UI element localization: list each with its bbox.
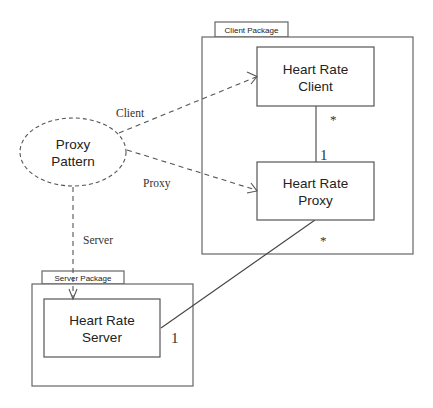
class-heart-rate-proxy[interactable]: Heart Rate Proxy xyxy=(257,162,374,220)
collaboration-proxy-pattern[interactable]: Proxy Pattern xyxy=(20,118,126,186)
class-heart-rate-server[interactable]: Heart Rate Server xyxy=(44,299,160,357)
class-heart-rate-server-line2: Server xyxy=(82,330,122,345)
class-heart-rate-proxy-line1: Heart Rate xyxy=(283,176,348,191)
multiplicity-server-end: 1 xyxy=(171,330,179,346)
multiplicity-client-end: * xyxy=(330,112,337,127)
collaboration-ellipse xyxy=(20,118,126,186)
uml-diagram: Client Package Server Package Heart Rate… xyxy=(0,0,433,408)
role-label-client: Client xyxy=(116,107,145,119)
multiplicity-proxy-to-client: 1 xyxy=(320,147,328,163)
role-label-proxy: Proxy xyxy=(143,177,171,190)
server-package-label: Server Package xyxy=(55,274,112,283)
class-heart-rate-server-line1: Heart Rate xyxy=(69,313,134,328)
role-label-server: Server xyxy=(83,234,113,246)
collaboration-line2: Pattern xyxy=(51,154,95,169)
class-heart-rate-client-line2: Client xyxy=(298,79,333,94)
multiplicity-proxy-to-server: * xyxy=(320,233,327,248)
class-heart-rate-client[interactable]: Heart Rate Client xyxy=(257,47,374,106)
collaboration-line1: Proxy xyxy=(56,137,91,152)
client-package-label: Client Package xyxy=(225,26,279,35)
class-heart-rate-proxy-line2: Proxy xyxy=(298,193,333,208)
class-heart-rate-client-line1: Heart Rate xyxy=(283,62,348,77)
